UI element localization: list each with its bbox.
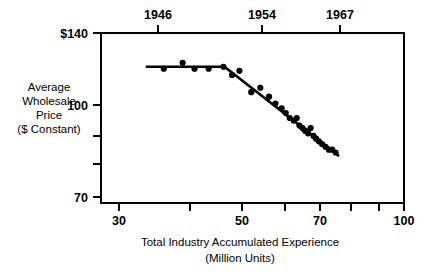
y-axis-title-line-1: Average — [28, 81, 71, 93]
data-point — [294, 115, 300, 121]
y-axis-title-line-3: Price — [36, 109, 62, 121]
data-point — [308, 125, 314, 131]
data-point — [220, 64, 226, 70]
data-point — [248, 89, 254, 95]
y-axis-title-line-2: Wholesale — [22, 95, 76, 107]
trend-line — [147, 67, 338, 156]
y-axis: $140 100 70 — [60, 27, 101, 205]
data-point — [229, 72, 235, 78]
y-axis-label-70: 70 — [74, 191, 88, 205]
x-axis-title-line-2: (Million Units) — [205, 252, 275, 264]
data-points — [161, 60, 339, 156]
x-axis-label-50: 50 — [235, 214, 249, 228]
experience-curve-chart: 1946 1954 1967 $140 100 70 Average Whole… — [0, 0, 423, 274]
data-point — [236, 68, 242, 74]
x-axis-label-100: 100 — [394, 214, 415, 228]
chart-canvas: 1946 1954 1967 $140 100 70 Average Whole… — [0, 0, 423, 274]
data-point — [283, 110, 289, 116]
data-point — [279, 105, 285, 111]
x-axis-label-30: 30 — [112, 214, 126, 228]
data-point — [161, 66, 167, 72]
x-axis-title: Total Industry Accumulated Experience (M… — [141, 236, 339, 264]
x-axis-title-line-1: Total Industry Accumulated Experience — [141, 236, 339, 248]
data-point — [205, 66, 211, 72]
plot-frame — [101, 33, 404, 203]
top-axis-label-1967: 1967 — [326, 8, 354, 22]
data-point — [191, 66, 197, 72]
top-axis: 1946 1954 1967 — [144, 8, 354, 33]
data-point — [266, 94, 272, 100]
data-point — [332, 149, 338, 155]
data-point — [257, 85, 263, 91]
top-axis-label-1954: 1954 — [248, 8, 276, 22]
top-axis-label-1946: 1946 — [144, 8, 172, 22]
data-point — [272, 100, 278, 106]
y-axis-title-line-4: ($ Constant) — [17, 123, 80, 135]
y-axis-label-140: $140 — [60, 27, 88, 41]
x-axis-label-70: 70 — [313, 214, 327, 228]
x-axis: 30 50 70 100 — [101, 203, 414, 228]
data-point — [180, 60, 186, 66]
